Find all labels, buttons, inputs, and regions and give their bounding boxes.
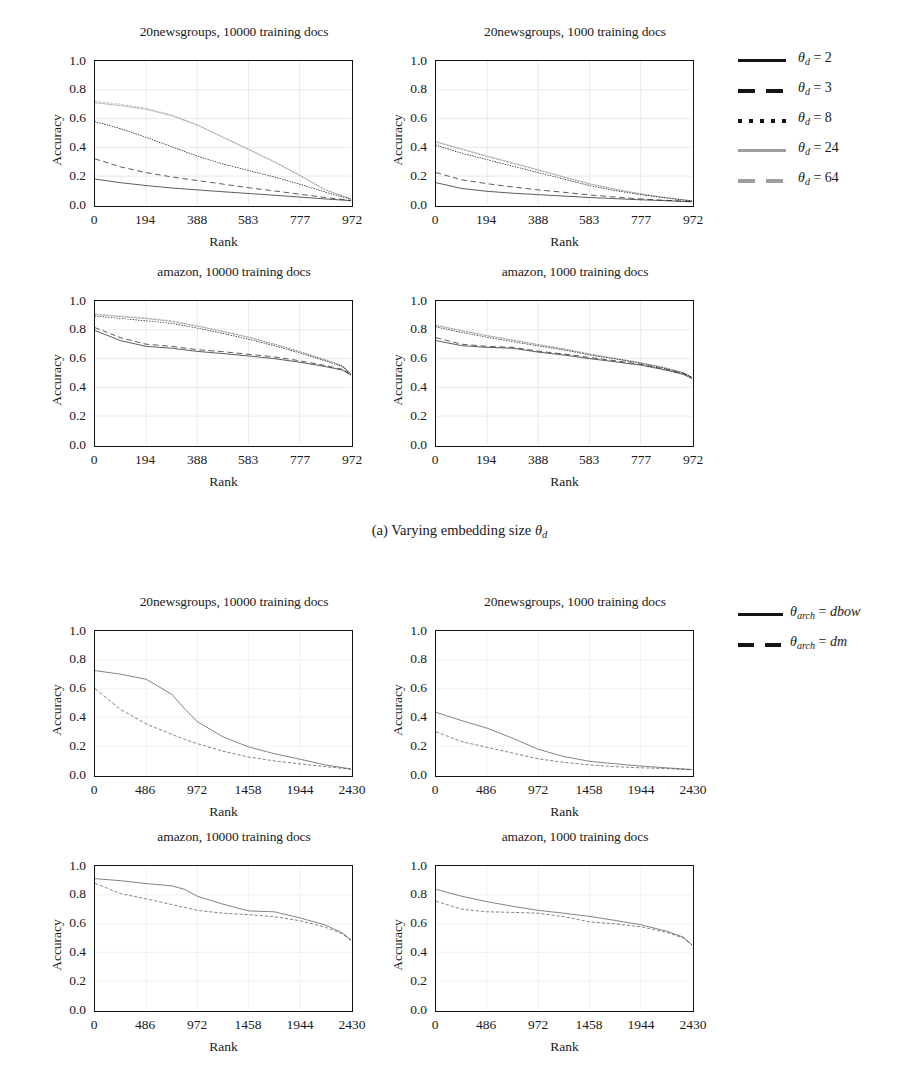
x-tick-label: 583 — [569, 452, 609, 468]
chart-canvas-b1 — [95, 631, 351, 775]
y-tick-label: 0.6 — [46, 350, 86, 366]
legend-swatch-dashed-black — [738, 89, 786, 93]
legend-figure-a: θd = 2 θd = 3 θd = 8 θd = 24 θd = 64 — [738, 50, 918, 200]
x-tick-label: 777 — [621, 212, 661, 228]
y-tick-label: 0.4 — [46, 379, 86, 395]
panel-a-20newsgroups-1000: 20newsgroups, 1000 training docs Accurac… — [361, 22, 721, 262]
y-tick-label: 0.4 — [387, 379, 427, 395]
chart-canvas-a3 — [95, 301, 351, 445]
x-tick-label: 1458 — [566, 1017, 612, 1033]
panel-title: amazon, 1000 training docs — [435, 264, 715, 280]
y-tick-label: 0.8 — [387, 81, 427, 97]
figure-group-a: 20newsgroups, 10000 training docs Accura… — [0, 0, 919, 580]
axis-label-x: Rank — [435, 804, 694, 820]
x-tick-label: 583 — [228, 452, 268, 468]
chart-canvas-b2 — [436, 631, 692, 775]
axis-label-x: Rank — [435, 234, 694, 250]
legend-swatch-solid-gray — [738, 149, 786, 152]
x-tick-label: 1944 — [618, 782, 664, 798]
x-tick-label: 1458 — [225, 782, 271, 798]
y-tick-label: 0.0 — [46, 437, 86, 453]
y-tick-label: 0.6 — [387, 110, 427, 126]
panel-b-amazon-1000: amazon, 1000 training docs Accuracy 1.0 … — [361, 827, 721, 1067]
legend-label: θd = 8 — [798, 110, 832, 127]
y-tick-label: 1.0 — [387, 53, 427, 69]
legend-swatch-dashed-black — [738, 643, 783, 647]
theta-subscript: d — [542, 529, 547, 540]
x-tick-label: 194 — [125, 452, 165, 468]
y-tick-label: 0.0 — [46, 1002, 86, 1018]
y-tick-label: 0.8 — [46, 886, 86, 902]
y-tick-label: 0.0 — [387, 1002, 427, 1018]
x-tick-label: 1458 — [225, 1017, 271, 1033]
legend-label: θarch = dm — [790, 634, 847, 651]
x-tick-label: 388 — [518, 452, 558, 468]
plot-area — [94, 630, 353, 777]
legend-swatch-dashed-gray — [738, 179, 786, 183]
y-tick-label: 0.2 — [387, 408, 427, 424]
x-tick-label: 0 — [74, 1017, 114, 1033]
x-tick-label: 583 — [569, 212, 609, 228]
panel-title: 20newsgroups, 10000 training docs — [94, 24, 374, 40]
figure-group-b: 20newsgroups, 10000 training docs Accura… — [0, 582, 919, 1075]
chart-canvas-a4 — [436, 301, 692, 445]
y-tick-label: 0.6 — [46, 110, 86, 126]
y-tick-label: 0.2 — [387, 973, 427, 989]
panel-b-20newsgroups-10000: 20newsgroups, 10000 training docs Accura… — [20, 592, 380, 832]
y-tick-label: 0.4 — [387, 944, 427, 960]
legend-label: θd = 64 — [798, 170, 839, 187]
y-tick-label: 0.0 — [387, 197, 427, 213]
legend-swatch-solid-black — [738, 59, 786, 62]
x-tick-label: 972 — [673, 212, 713, 228]
y-tick-label: 0.8 — [46, 81, 86, 97]
x-tick-label: 194 — [125, 212, 165, 228]
x-tick-label: 194 — [466, 452, 506, 468]
x-tick-label: 486 — [125, 1017, 165, 1033]
x-tick-label: 972 — [177, 1017, 217, 1033]
plot-area — [435, 865, 694, 1012]
y-tick-label: 1.0 — [46, 53, 86, 69]
x-tick-label: 1944 — [277, 782, 323, 798]
x-tick-label: 583 — [228, 212, 268, 228]
plot-area — [435, 300, 694, 447]
y-tick-label: 1.0 — [387, 858, 427, 874]
theta-symbol: θ — [535, 522, 542, 538]
panel-a-amazon-10000: amazon, 10000 training docs Accuracy 1.0… — [20, 262, 380, 502]
axis-label-x: Rank — [435, 474, 694, 490]
y-tick-label: 0.6 — [46, 915, 86, 931]
x-tick-label: 388 — [518, 212, 558, 228]
y-tick-label: 0.2 — [387, 738, 427, 754]
y-tick-label: 0.2 — [46, 168, 86, 184]
panel-title: amazon, 1000 training docs — [435, 829, 715, 845]
x-tick-label: 972 — [518, 782, 558, 798]
x-tick-label: 972 — [673, 452, 713, 468]
chart-canvas-a2 — [436, 61, 692, 205]
y-tick-label: 0.4 — [387, 709, 427, 725]
x-tick-label: 388 — [177, 452, 217, 468]
plot-area — [435, 630, 694, 777]
x-tick-label: 1944 — [277, 1017, 323, 1033]
plot-area — [94, 865, 353, 1012]
x-tick-label: 0 — [415, 782, 455, 798]
x-tick-label: 777 — [280, 212, 320, 228]
x-tick-label: 486 — [466, 1017, 506, 1033]
x-tick-label: 0 — [415, 212, 455, 228]
y-tick-label: 0.4 — [46, 139, 86, 155]
y-tick-label: 1.0 — [46, 858, 86, 874]
x-tick-label: 777 — [621, 452, 661, 468]
x-tick-label: 0 — [415, 1017, 455, 1033]
x-tick-label: 777 — [280, 452, 320, 468]
y-tick-label: 0.6 — [387, 350, 427, 366]
y-tick-label: 0.8 — [387, 321, 427, 337]
panel-b-amazon-10000: amazon, 10000 training docs Accuracy 1.0… — [20, 827, 380, 1067]
plot-area — [94, 60, 353, 207]
y-tick-label: 0.2 — [387, 168, 427, 184]
y-tick-label: 0.4 — [46, 944, 86, 960]
y-tick-label: 0.0 — [387, 437, 427, 453]
legend-swatch-dotted-black — [738, 119, 786, 123]
figure-caption-a: (a) Varying embedding size θd — [0, 522, 919, 540]
axis-label-x: Rank — [435, 1039, 694, 1055]
legend-figure-b: θarch = dbow θarch = dm — [738, 604, 918, 664]
x-tick-label: 194 — [466, 212, 506, 228]
y-tick-label: 1.0 — [46, 623, 86, 639]
